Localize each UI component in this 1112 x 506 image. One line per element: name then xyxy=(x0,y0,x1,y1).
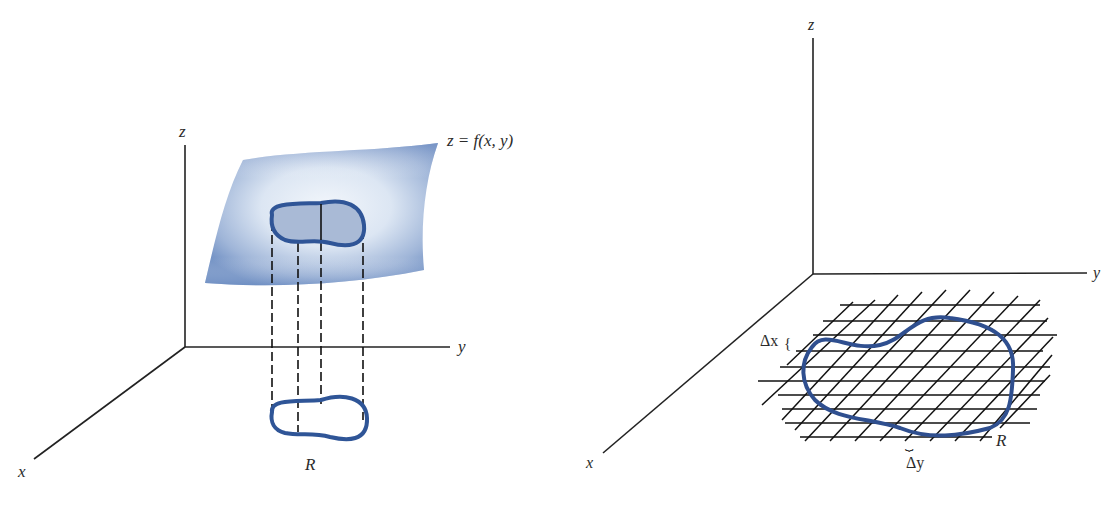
delta-x-label: Δx xyxy=(760,332,778,349)
left-x-label: x xyxy=(17,462,26,481)
right-x-label: x xyxy=(585,454,593,471)
left-region-label: R xyxy=(304,455,316,474)
right-z-label: z xyxy=(807,16,815,33)
left-figure: z y x z = f(x, y) R xyxy=(17,122,514,481)
right-y-axis xyxy=(813,273,1087,274)
region-r xyxy=(272,397,368,439)
right-figure: z y x R Δx { ⏟ Δy xyxy=(585,16,1101,472)
region-on-surface xyxy=(272,201,365,245)
figure-canvas: z y x z = f(x, y) R xyxy=(0,0,1112,506)
right-x-axis xyxy=(603,274,813,453)
delta-x-brace: { xyxy=(784,335,791,351)
right-y-label: y xyxy=(1091,264,1101,282)
left-x-axis xyxy=(34,347,185,459)
surface-label: z = f(x, y) xyxy=(446,131,514,150)
delta-y-brace: ⏟ xyxy=(905,436,914,453)
right-region-label: R xyxy=(995,431,1007,450)
left-z-label: z xyxy=(178,122,186,141)
delta-y-label: Δy xyxy=(906,454,924,472)
left-y-label: y xyxy=(456,337,466,356)
